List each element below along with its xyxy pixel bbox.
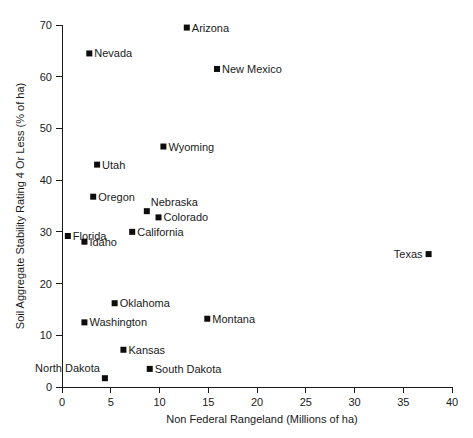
data-point-marker — [160, 144, 166, 150]
data-point: South Dakota — [147, 363, 223, 375]
data-point-marker — [214, 66, 220, 72]
data-point-label: Idaho — [89, 236, 117, 248]
data-point: Washington — [81, 316, 147, 328]
data-point-label: Nebraska — [151, 196, 199, 208]
data-point-label: Montana — [212, 313, 256, 325]
x-axis: 0510152025303540 — [59, 387, 458, 408]
data-point: Montana — [204, 313, 256, 325]
data-point-marker — [81, 319, 87, 325]
y-axis-tick-label: 70 — [40, 19, 52, 31]
x-axis-tick-label: 15 — [202, 396, 214, 408]
x-axis-tick-label: 20 — [251, 396, 263, 408]
data-points: ArizonaNevadaNew MexicoWyomingUtahOregon… — [35, 22, 432, 382]
data-point: Arizona — [184, 22, 230, 34]
data-point-marker — [65, 233, 71, 239]
data-point-marker — [204, 316, 210, 322]
y-axis: 010203040506070 — [40, 19, 62, 393]
data-point-marker — [112, 300, 118, 306]
x-axis-title: Non Federal Rangeland (Millions of ha) — [166, 413, 357, 425]
data-point-marker — [102, 375, 108, 381]
data-point-marker — [90, 194, 96, 200]
data-point-marker — [147, 366, 153, 372]
data-point: Colorado — [156, 211, 209, 223]
data-point-label: South Dakota — [155, 363, 223, 375]
data-point: New Mexico — [214, 63, 282, 75]
x-axis-tick-label: 30 — [348, 396, 360, 408]
data-point-label: North Dakota — [35, 362, 101, 374]
data-point-label: Nevada — [94, 47, 133, 59]
data-point: Utah — [94, 159, 125, 171]
data-point-label: Arizona — [192, 22, 230, 34]
x-axis-tick-label: 5 — [108, 396, 114, 408]
data-point: Nevada — [86, 47, 133, 59]
y-axis-tick-label: 60 — [40, 71, 52, 83]
data-point: Oklahoma — [112, 297, 171, 309]
y-axis-tick-label: 30 — [40, 226, 52, 238]
data-point-marker — [94, 162, 100, 168]
data-point-label: Oregon — [98, 191, 135, 203]
data-point-label: California — [137, 226, 184, 238]
data-point: North Dakota — [35, 362, 108, 381]
x-axis-tick-label: 0 — [59, 396, 65, 408]
x-axis-tick-label: 10 — [153, 396, 165, 408]
data-point-label: Kansas — [128, 344, 165, 356]
y-axis-tick-label: 10 — [40, 329, 52, 341]
data-point-label: Utah — [102, 159, 125, 171]
data-point-marker — [120, 347, 126, 353]
y-axis-title: Soil Aggregate Stability Rating 4 Or Les… — [14, 83, 26, 329]
data-point-label: Colorado — [164, 211, 209, 223]
data-point-label: New Mexico — [222, 63, 282, 75]
x-axis-tick-label: 40 — [446, 396, 458, 408]
y-axis-tick-label: 20 — [40, 278, 52, 290]
y-axis-tick-label: 50 — [40, 122, 52, 134]
plot-area: 010203040506070 0510152025303540 Arizona… — [0, 0, 473, 438]
data-point-label: Oklahoma — [120, 297, 171, 309]
y-axis-tick-label: 40 — [40, 174, 52, 186]
data-point: Wyoming — [160, 141, 214, 153]
data-point-marker — [156, 214, 162, 220]
data-point-marker — [81, 239, 87, 245]
data-point-label: Washington — [89, 316, 147, 328]
data-point-marker — [144, 208, 150, 214]
data-point-label: Texas — [394, 248, 423, 260]
data-point-marker — [129, 229, 135, 235]
data-point: Oregon — [90, 191, 135, 203]
data-point: Texas — [394, 248, 432, 260]
y-axis-tick-label: 0 — [46, 381, 52, 393]
data-point: Kansas — [120, 344, 165, 356]
data-point-marker — [86, 50, 92, 56]
scatter-chart: 010203040506070 0510152025303540 Arizona… — [0, 0, 473, 438]
data-point: California — [129, 226, 184, 238]
x-axis-tick-label: 35 — [397, 396, 409, 408]
data-point-marker — [426, 251, 432, 257]
x-axis-tick-label: 25 — [300, 396, 312, 408]
data-point-label: Wyoming — [168, 141, 214, 153]
data-point-marker — [184, 25, 190, 31]
